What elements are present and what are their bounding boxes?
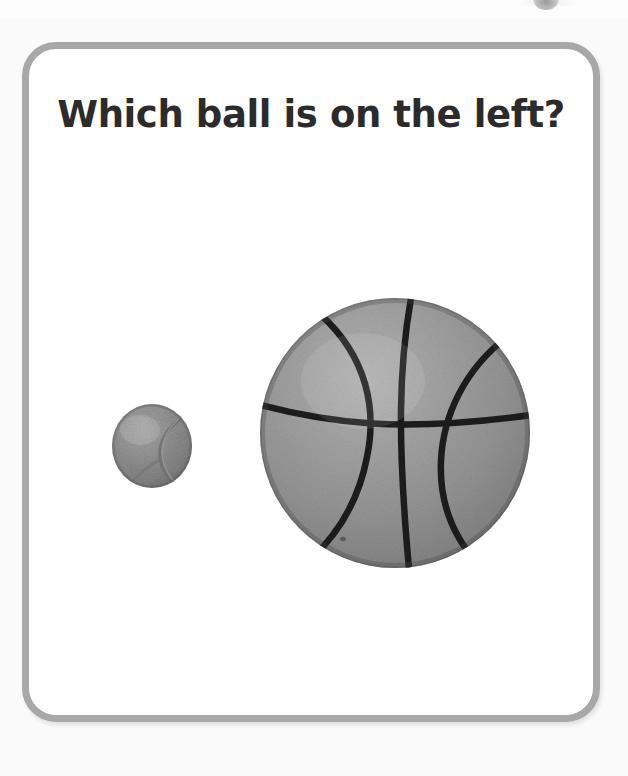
tennis-ball-icon [111, 403, 193, 489]
cropped-circle-artifact-icon [533, 0, 559, 10]
basketball [259, 297, 531, 569]
question-card: Which ball is on the left? [22, 42, 600, 722]
basketball-icon [259, 297, 531, 569]
tennis-ball [111, 403, 193, 489]
worksheet-page: Which ball is on the left? [0, 0, 628, 776]
illustration-area [29, 49, 593, 715]
